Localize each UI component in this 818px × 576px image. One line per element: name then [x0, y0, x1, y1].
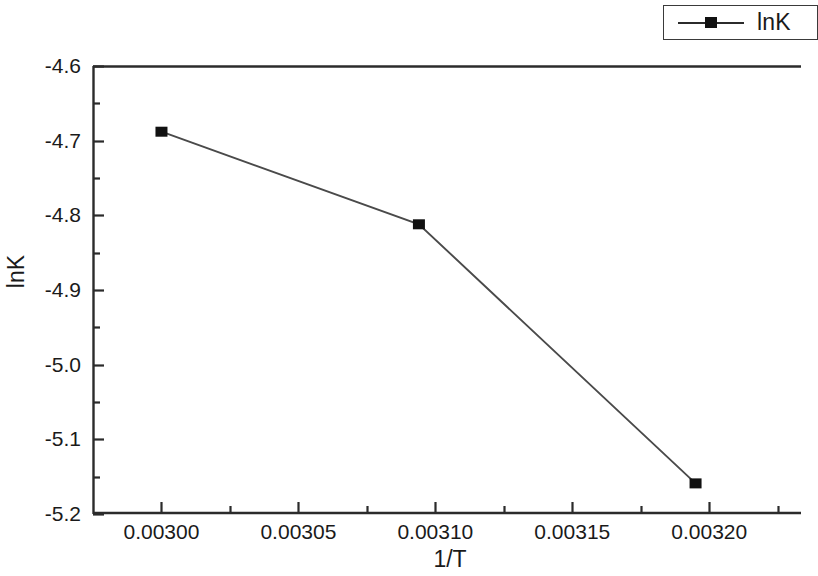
x-tick-label: 0.00315 — [502, 521, 642, 542]
data-point-marker — [413, 219, 425, 229]
x-tick-label: 0.00300 — [91, 521, 231, 542]
y-tick-label: -4.8 — [17, 204, 81, 225]
x-tick-label: 0.00305 — [228, 521, 368, 542]
data-series-lnK — [155, 127, 701, 489]
legend-marker-symbol — [678, 16, 744, 30]
axes-spines — [93, 66, 801, 514]
legend[interactable]: lnK — [663, 5, 818, 40]
y-tick-label: -4.7 — [17, 130, 81, 151]
data-point-marker — [690, 478, 702, 488]
y-axis-title: lnK — [3, 237, 30, 307]
y-tick-label: -5.2 — [17, 503, 81, 524]
y-tick-label: -5.0 — [17, 354, 81, 375]
y-tick-label: -4.6 — [17, 55, 81, 76]
y-tick-label: -5.1 — [17, 428, 81, 449]
x-tick-label: 0.00320 — [639, 521, 779, 542]
x-tick-marks — [162, 502, 779, 513]
x-axis-title: 1/T — [400, 546, 500, 573]
data-point-marker — [155, 127, 167, 137]
legend-square-icon — [705, 17, 717, 28]
x-tick-label: 0.00310 — [365, 521, 505, 542]
legend-label-lnK: lnK — [757, 11, 791, 34]
